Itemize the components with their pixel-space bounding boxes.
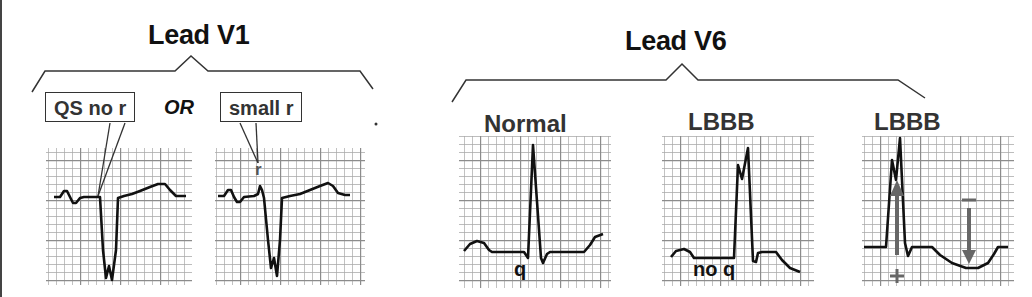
lead-v6-bracket	[452, 64, 925, 102]
v6-lbbb-st-label: LBBB	[874, 108, 941, 136]
no-q-wave-annotation: no q	[693, 258, 735, 281]
v6-lbbb-label: LBBB	[688, 108, 755, 136]
ecg-diagram-canvas	[0, 0, 1032, 297]
or-label: OR	[164, 96, 194, 119]
v6-normal-label: Normal	[484, 110, 567, 138]
callout-small-r: small r	[220, 92, 302, 122]
v6-lbbb-st-grid	[862, 136, 1014, 286]
q-wave-annotation: q	[514, 258, 526, 281]
v1-qs-grid	[46, 148, 192, 285]
r-wave-marker: r	[255, 160, 262, 180]
v6-lbbb-grid	[662, 136, 814, 286]
callout-qs-no-r: QS no r	[45, 92, 135, 122]
lead-v1-bracket	[32, 56, 373, 92]
v1-small-r-grid	[215, 148, 365, 285]
